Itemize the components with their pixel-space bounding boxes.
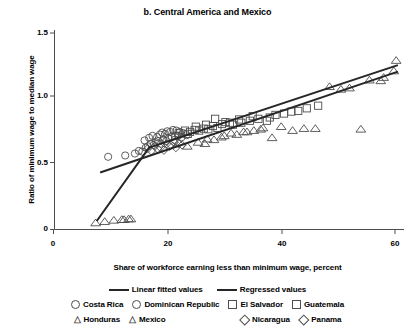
- chart-legend: Linear fitted values Regressed values Co…: [0, 282, 415, 327]
- legend-label-mexico: Mexico: [139, 315, 166, 324]
- square-marker-icon: [228, 300, 237, 309]
- data-point-triangle: [391, 57, 401, 64]
- legend-label-dominican-republic: Dominican Republic: [144, 300, 219, 309]
- chart-figure: b. Central America and Mexico Ratio of m…: [0, 0, 415, 336]
- circle-marker-icon: [71, 300, 80, 309]
- legend-entry-dominican-republic[interactable]: Dominican Republic: [132, 300, 219, 309]
- legend-row-countries-1: Costa Rica Dominican Republic El Salvado…: [0, 297, 415, 312]
- legend-label-nicaragua: Nicaragua: [252, 315, 290, 324]
- circle-marker-icon: [132, 300, 141, 309]
- legend-label-honduras: Honduras: [84, 315, 121, 324]
- data-point-triangle: [239, 128, 249, 135]
- legend-entry-honduras[interactable]: △ Honduras: [74, 315, 120, 324]
- data-point-triangle: [288, 127, 298, 134]
- legend-entry-mexico[interactable]: △ Mexico: [129, 315, 165, 324]
- data-point-square: [212, 115, 219, 122]
- triangle-marker-icon: △: [129, 316, 136, 323]
- data-point-triangle: [100, 218, 110, 225]
- data-markers: [91, 57, 401, 226]
- legend-entry-panama[interactable]: Panama: [299, 315, 342, 324]
- legend-entry-costa-rica[interactable]: Costa Rica: [71, 300, 123, 309]
- legend-label-guatemala: Guatemala: [304, 300, 344, 309]
- legend-label-panama: Panama: [311, 315, 341, 324]
- legend-entry-regressed-values[interactable]: Regressed values: [217, 285, 306, 294]
- data-point-square: [303, 105, 310, 112]
- data-point-triangle: [310, 125, 320, 132]
- data-point-circle: [122, 152, 129, 159]
- legend-entry-nicaragua[interactable]: Nicaragua: [240, 315, 290, 324]
- data-point-triangle: [91, 219, 101, 226]
- legend-label-linear-fitted-values: Linear fitted values: [132, 285, 203, 294]
- data-point-triangle: [356, 125, 366, 132]
- legend-entry-el-salvador[interactable]: El Salvador: [228, 300, 282, 309]
- triangle-marker-icon: △: [74, 316, 81, 323]
- legend-entry-linear-fitted-values[interactable]: Linear fitted values: [109, 285, 203, 294]
- series-honduras: [91, 57, 401, 226]
- legend-entry-guatemala[interactable]: Guatemala: [292, 300, 344, 309]
- data-point-triangle: [299, 125, 309, 132]
- legend-row-lines: Linear fitted values Regressed values: [0, 282, 415, 297]
- data-point-square: [315, 102, 322, 109]
- series-panama: [147, 141, 186, 155]
- data-point-square: [295, 107, 302, 114]
- diamond-marker-icon: [298, 314, 309, 325]
- data-point-triangle: [276, 123, 286, 130]
- axis-lines: [50, 30, 404, 234]
- legend-label-regressed-values: Regressed values: [240, 285, 306, 294]
- legend-label-el-salvador: El Salvador: [240, 300, 282, 309]
- line-swatch-icon: [109, 289, 129, 291]
- data-point-circle: [105, 153, 112, 160]
- trend-line-linear-fitted-values: [100, 72, 398, 173]
- data-point-triangle: [267, 134, 277, 141]
- diamond-marker-icon: [239, 314, 250, 325]
- legend-label-costa-rica: Costa Rica: [83, 300, 123, 309]
- legend-row-countries-2: △ Honduras △ Mexico Nicaragua Panama: [0, 312, 415, 327]
- line-swatch-icon: [217, 289, 237, 291]
- square-marker-icon: [292, 300, 301, 309]
